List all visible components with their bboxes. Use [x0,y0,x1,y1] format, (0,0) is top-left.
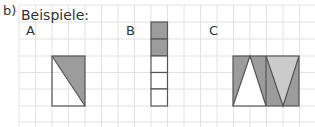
example-label-c: C [209,24,218,37]
example-label-b: B [126,24,135,37]
shape-b [151,22,168,106]
example-label-a: A [26,24,35,37]
heading: Beispiele: [21,8,89,22]
task-label: b) [3,4,16,17]
shape-c [233,56,299,106]
